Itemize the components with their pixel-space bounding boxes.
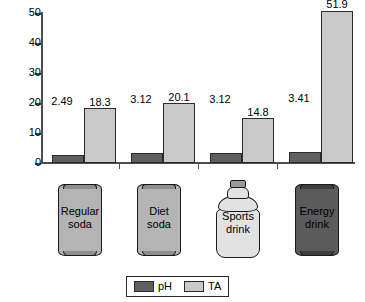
can-top-band: [142, 184, 176, 189]
legend-entry-ph: pH: [134, 281, 172, 292]
legend-label-ph: pH: [158, 281, 172, 292]
container-illustrations: Regular soda Diet soda Sports drink: [41, 176, 355, 262]
legend-label-ta: TA: [208, 281, 221, 292]
container-label-line1: Energy: [278, 205, 356, 217]
bar-ph-regular-soda: [52, 155, 84, 163]
bar-label-ph-sports-drink: 3.12: [196, 93, 244, 105]
can-top-band: [63, 184, 97, 189]
bar-label-ph-energy-drink: 3.41: [275, 92, 323, 104]
can-bottom-band: [300, 251, 334, 256]
container-label-line2: soda: [41, 218, 119, 230]
bar-label-ta-sports-drink: 14.8: [234, 106, 282, 118]
container-regular-soda: Regular soda: [41, 176, 119, 262]
container-label-line1: Diet: [120, 205, 198, 217]
container-label-line1: Regular: [41, 205, 119, 217]
y-tick-label: 30: [11, 67, 41, 78]
y-tick-label: 50: [11, 7, 41, 18]
bar-ta-energy-drink: [321, 11, 353, 163]
bar-ph-diet-soda: [131, 153, 163, 163]
container-energy-drink: Energy drink: [278, 176, 356, 262]
chart-legend: pH TA: [126, 276, 229, 297]
bar-ph-energy-drink: [289, 152, 321, 163]
x-tick-mark: [119, 164, 120, 169]
legend-swatch-ph: [134, 281, 154, 292]
container-label-line1: Sports: [199, 210, 277, 222]
bar-ta-diet-soda: [163, 103, 195, 163]
legend-swatch-ta: [184, 281, 204, 292]
y-tick-label: 10: [11, 127, 41, 138]
y-tick-label: 0: [11, 157, 41, 168]
bar-label-ta-energy-drink: 51.9: [313, 0, 361, 10]
container-label-line2: drink: [278, 218, 356, 230]
plot-area: 2.49 18.3 3.12 20.1 3.12 14.8 3.41 51.9: [41, 12, 355, 163]
y-tick-label: 40: [11, 37, 41, 48]
can-bottom-band: [63, 251, 97, 256]
y-tick-label: 20: [11, 97, 41, 108]
bottle-cap: [230, 180, 246, 188]
container-label-line2: drink: [199, 223, 277, 235]
container-diet-soda: Diet soda: [120, 176, 198, 262]
x-tick-mark: [198, 164, 199, 169]
bar-ta-sports-drink: [242, 118, 274, 163]
can-top-band: [300, 184, 334, 189]
bar-ph-sports-drink: [210, 153, 242, 163]
container-sports-drink: Sports drink: [199, 176, 277, 262]
legend-entry-ta: TA: [184, 281, 221, 292]
container-label-line2: soda: [120, 218, 198, 230]
bar-ta-regular-soda: [84, 108, 116, 163]
can-bottom-band: [142, 251, 176, 256]
x-tick-mark: [277, 164, 278, 169]
bar-chart-figure: 50 40 30 20 10 0 2.49 18.3: [0, 0, 365, 302]
bottle-neck: [227, 187, 249, 199]
